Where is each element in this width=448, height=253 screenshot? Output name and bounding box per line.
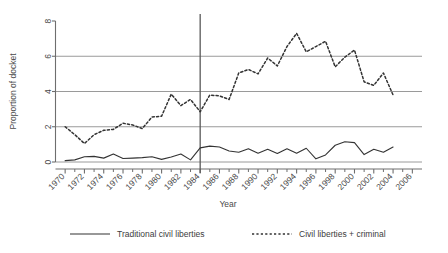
x-tick-label: 1980 [143, 171, 164, 192]
line-chart: 02468 1970197219741976197819801982198419… [0, 0, 448, 253]
x-axis-title: Year [219, 199, 236, 209]
x-tick-label: 1986 [200, 171, 221, 192]
x-tick-label: 1972 [65, 171, 86, 192]
x-tick-label: 2002 [355, 171, 376, 192]
x-tick-label: 1978 [123, 171, 144, 192]
x-tick-label: 1974 [85, 171, 106, 192]
x-axis-tick-labels: 1970197219741976197819801982198419861988… [46, 171, 414, 192]
data-series [65, 33, 393, 160]
gridlines [56, 56, 423, 162]
x-tick-label: 1970 [46, 171, 67, 192]
y-axis-tick-labels: 02468 [43, 18, 53, 164]
x-tick-label: 2006 [393, 171, 414, 192]
legend-label: Traditional civil liberties [117, 229, 205, 239]
x-tick-label: 1996 [297, 171, 318, 192]
x-tick-label: 1994 [278, 171, 299, 192]
x-tick-label: 1988 [220, 171, 241, 192]
legend-label: Civil liberties + criminal [299, 229, 386, 239]
y-tick-label: 6 [43, 54, 53, 59]
chart-container: 02468 1970197219741976197819801982198419… [0, 0, 448, 253]
y-axis-title: Proportion of docket [8, 53, 18, 130]
y-axis [52, 21, 56, 162]
x-tick-label: 1998 [316, 171, 337, 192]
legend-item: Traditional civil liberties [70, 229, 205, 239]
x-tick-label: 2004 [374, 171, 395, 192]
y-tick-label: 0 [43, 159, 53, 164]
x-tick-label: 1982 [162, 171, 183, 192]
legend-item: Civil liberties + criminal [252, 229, 386, 239]
legend: Traditional civil libertiesCivil liberti… [70, 229, 386, 239]
series-line-1 [65, 142, 393, 161]
y-tick-label: 2 [43, 124, 53, 129]
y-tick-label: 4 [43, 89, 53, 94]
y-tick-label: 8 [43, 18, 53, 23]
x-tick-label: 1992 [258, 171, 279, 192]
x-tick-label: 1984 [181, 171, 202, 192]
x-tick-label: 1990 [239, 171, 260, 192]
x-tick-label: 2000 [335, 171, 356, 192]
x-tick-label: 1976 [104, 171, 125, 192]
